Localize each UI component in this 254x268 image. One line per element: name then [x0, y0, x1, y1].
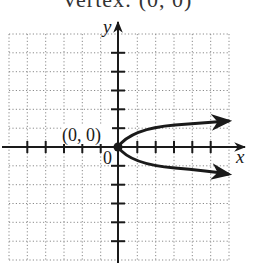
- coordinate-plane: y x 0 (0, 0): [0, 0, 254, 268]
- y-axis-label: y: [101, 16, 112, 37]
- vertex-point: [114, 143, 123, 152]
- vertex-label: (0, 0): [62, 125, 101, 146]
- x-axis-label: x: [235, 146, 245, 167]
- origin-label: 0: [103, 148, 112, 168]
